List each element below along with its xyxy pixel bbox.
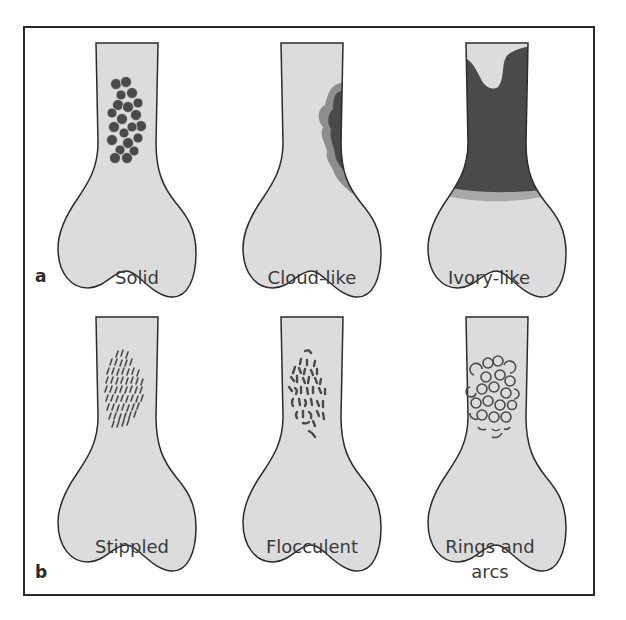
panel-letter-a: a	[35, 266, 46, 286]
bone-ivory-like	[428, 43, 566, 297]
bone-stippled	[58, 317, 196, 571]
bone-cloud-like	[243, 43, 391, 297]
bone-flocculent	[243, 317, 381, 571]
bone-solid	[58, 43, 196, 297]
label-arcs: arcs	[410, 560, 570, 584]
bone-diagram	[0, 0, 626, 620]
label-rings-and: Rings and	[410, 535, 570, 559]
panel-letter-b: b	[35, 562, 47, 582]
label-solid: Solid	[57, 266, 217, 290]
label-flocculent: Flocculent	[232, 535, 392, 559]
label-cloud-like: Cloud-like	[232, 266, 392, 290]
bone-rings-and-arcs	[428, 317, 566, 571]
label-stippled: Stippled	[52, 535, 212, 559]
label-ivory-like: Ivory-like	[409, 266, 569, 290]
